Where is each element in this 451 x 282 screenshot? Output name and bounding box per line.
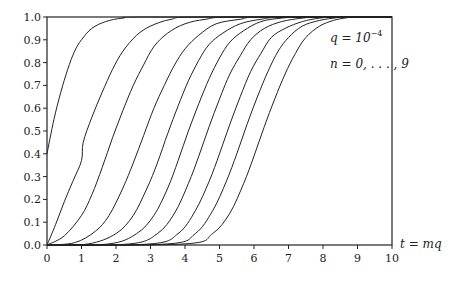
x-tick-label: 3 xyxy=(147,252,154,265)
x-tick-label: 2 xyxy=(113,252,120,265)
y-tick-label: 0.4 xyxy=(24,148,42,161)
xlabel: t = mq xyxy=(400,237,442,251)
axis-ticks: 0123456789100.00.10.20.30.40.50.60.70.80… xyxy=(24,11,400,265)
x-tick-label: 0 xyxy=(44,252,51,265)
y-tick-label: 0.3 xyxy=(24,171,42,184)
curves xyxy=(47,17,392,245)
y-tick-label: 0.6 xyxy=(24,102,42,115)
annotation-q: q = 10−4 xyxy=(330,29,382,45)
curve-n-9 xyxy=(47,17,392,245)
plot-frame xyxy=(47,17,392,245)
x-tick-label: 4 xyxy=(182,252,189,265)
curve-n-6 xyxy=(47,17,392,245)
y-tick-label: 0.1 xyxy=(24,216,42,229)
y-tick-label: 0.7 xyxy=(24,79,42,92)
x-tick-label: 10 xyxy=(385,252,399,265)
curve-n-2 xyxy=(47,17,392,245)
x-tick-label: 7 xyxy=(285,252,292,265)
annotation-n: n = 0, . . . , 9 xyxy=(330,57,409,71)
y-tick-label: 0.5 xyxy=(24,125,42,138)
curve-n-8 xyxy=(47,17,392,245)
y-tick-label: 1.0 xyxy=(24,11,42,24)
curve-n-3 xyxy=(47,17,392,245)
y-tick-label: 0.9 xyxy=(24,34,42,47)
x-tick-label: 9 xyxy=(354,252,361,265)
curve-n-7 xyxy=(47,17,392,245)
x-tick-label: 5 xyxy=(216,252,223,265)
x-tick-label: 1 xyxy=(78,252,85,265)
y-tick-label: 0.2 xyxy=(24,193,42,206)
y-tick-label: 0.8 xyxy=(24,57,42,70)
line-chart: 0123456789100.00.10.20.30.40.50.60.70.80… xyxy=(0,0,451,282)
curve-n-5 xyxy=(47,17,392,245)
x-tick-label: 6 xyxy=(251,252,258,265)
curve-n-1 xyxy=(47,17,392,245)
curve-n-4 xyxy=(47,17,392,245)
y-tick-label: 0.0 xyxy=(24,239,42,252)
x-tick-label: 8 xyxy=(320,252,327,265)
